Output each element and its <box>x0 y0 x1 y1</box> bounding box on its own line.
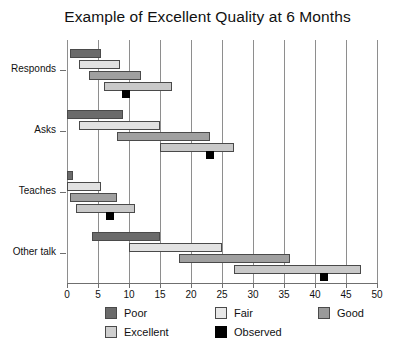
x-tick-15 <box>160 284 161 288</box>
bar-asks-poor <box>67 110 123 119</box>
bar-asks-good <box>117 132 210 141</box>
observed-marker-responds <box>122 90 130 98</box>
y-tick-responds <box>60 70 66 71</box>
x-tick-35 <box>284 284 285 288</box>
x-tick-50 <box>377 284 378 288</box>
x-tick-20 <box>191 284 192 288</box>
observed-marker-teaches <box>106 212 114 220</box>
y-tick-asks <box>60 131 66 132</box>
gridline-x-0 <box>67 40 68 283</box>
bar-other-talk-fair <box>129 243 222 252</box>
bar-teaches-fair <box>67 182 101 191</box>
y-tick-label-other-talk: Other talk <box>0 246 56 257</box>
x-tick-label-45: 45 <box>331 289 361 300</box>
gridline-x-35 <box>284 40 285 283</box>
legend-item-fair: Fair <box>215 305 253 320</box>
bar-responds-good <box>89 71 142 80</box>
legend-label-fair: Fair <box>234 307 253 319</box>
legend-item-poor: Poor <box>105 305 147 320</box>
gridline-x-30 <box>253 40 254 283</box>
bar-asks-excellent <box>160 143 234 152</box>
chart-container: Example of Excellent Quality at 6 Months… <box>0 0 415 358</box>
x-tick-label-10: 10 <box>114 289 144 300</box>
legend-swatch-poor-icon <box>105 307 117 319</box>
bar-responds-excellent <box>104 82 172 91</box>
y-tick-label-responds: Responds <box>0 63 56 74</box>
x-tick-5 <box>98 284 99 288</box>
legend-item-good: Good <box>318 305 364 320</box>
chart-title: Example of Excellent Quality at 6 Months <box>0 8 415 26</box>
bar-asks-fair <box>79 121 160 130</box>
bar-teaches-good <box>70 193 117 202</box>
x-tick-label-20: 20 <box>176 289 206 300</box>
x-tick-label-30: 30 <box>238 289 268 300</box>
x-tick-40 <box>315 284 316 288</box>
gridline-x-45 <box>346 40 347 283</box>
y-tick-teaches <box>60 192 66 193</box>
bar-responds-fair <box>79 60 119 69</box>
legend-swatch-observed-icon <box>215 326 227 338</box>
gridline-x-50 <box>377 40 378 283</box>
legend-swatch-good-icon <box>318 307 330 319</box>
gridline-x-25 <box>222 40 223 283</box>
x-tick-label-15: 15 <box>145 289 175 300</box>
x-tick-label-5: 5 <box>83 289 113 300</box>
gridline-x-40 <box>315 40 316 283</box>
legend-item-excellent: Excellent <box>105 324 169 339</box>
y-tick-other-talk <box>60 253 66 254</box>
x-tick-label-0: 0 <box>52 289 82 300</box>
legend-label-observed: Observed <box>234 326 282 338</box>
y-tick-label-asks: Asks <box>0 124 56 135</box>
legend-label-good: Good <box>337 307 364 319</box>
observed-marker-other-talk <box>320 273 328 281</box>
chart-legend: PoorFairGoodExcellentObserved <box>0 303 415 345</box>
legend-swatch-excellent-icon <box>105 326 117 338</box>
x-tick-label-50: 50 <box>362 289 392 300</box>
bar-other-talk-good <box>179 254 291 263</box>
observed-marker-asks <box>206 151 214 159</box>
x-tick-0 <box>67 284 68 288</box>
bar-teaches-poor <box>67 171 73 180</box>
bar-other-talk-poor <box>92 232 160 241</box>
x-tick-25 <box>222 284 223 288</box>
x-tick-label-40: 40 <box>300 289 330 300</box>
plot-area <box>67 40 377 283</box>
x-tick-30 <box>253 284 254 288</box>
legend-item-observed: Observed <box>215 324 282 339</box>
legend-label-poor: Poor <box>124 307 147 319</box>
x-tick-45 <box>346 284 347 288</box>
y-tick-label-teaches: Teaches <box>0 185 56 196</box>
bar-other-talk-excellent <box>234 265 361 274</box>
bar-responds-poor <box>70 49 101 58</box>
x-tick-label-25: 25 <box>207 289 237 300</box>
legend-swatch-fair-icon <box>215 307 227 319</box>
x-tick-label-35: 35 <box>269 289 299 300</box>
legend-label-excellent: Excellent <box>124 326 169 338</box>
x-tick-10 <box>129 284 130 288</box>
